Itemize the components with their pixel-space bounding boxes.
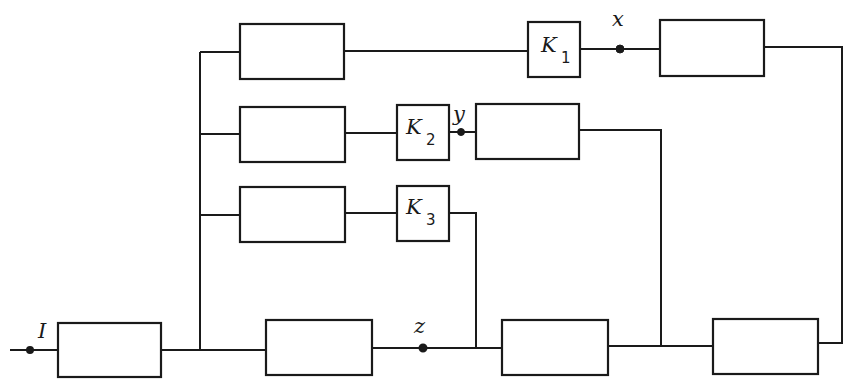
node-z-label: z xyxy=(413,314,426,338)
k1-label-main: K xyxy=(540,33,558,57)
k2-label-main: K xyxy=(405,115,423,139)
branch-3-block xyxy=(240,187,345,242)
k2-label-sub: 2 xyxy=(426,131,436,149)
blocks-layer xyxy=(58,20,818,377)
adder-1 xyxy=(502,320,608,375)
adder-2 xyxy=(713,319,818,374)
k3-block xyxy=(397,186,449,241)
branch-2-block xyxy=(240,107,345,162)
node-y xyxy=(458,129,465,136)
input-label: I xyxy=(37,319,47,343)
node-x-label: x xyxy=(612,7,624,31)
branch-1-block xyxy=(240,24,344,79)
node-x xyxy=(616,45,624,53)
k2-block xyxy=(397,105,449,160)
x-out-block xyxy=(660,20,764,76)
k1-label-sub: 1 xyxy=(561,49,571,67)
wire-yout-feedback xyxy=(579,130,661,346)
k3-label-main: K xyxy=(405,195,423,219)
wire-xout-feedback xyxy=(764,47,842,343)
node-y-label: y xyxy=(452,102,466,126)
node-z xyxy=(420,345,427,352)
block-diagram: I x y z K 1 K 2 K 3 xyxy=(0,0,857,391)
input-block xyxy=(58,323,161,377)
middle-block xyxy=(266,320,372,375)
input-terminal xyxy=(27,347,33,353)
wire-k3-feedback xyxy=(449,213,476,348)
y-out-block xyxy=(476,104,579,159)
k3-label-sub: 3 xyxy=(426,211,436,229)
